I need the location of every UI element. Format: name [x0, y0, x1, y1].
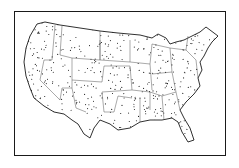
state-border [150, 64, 152, 90]
state-border [176, 92, 180, 110]
state-border [102, 66, 132, 92]
state-border [102, 92, 114, 112]
state-borders [40, 25, 198, 122]
state-border [60, 26, 72, 80]
state-border [170, 48, 196, 60]
state-border [100, 40, 130, 62]
state-border [114, 96, 132, 112]
state-border [60, 80, 72, 100]
state-border [40, 60, 60, 100]
state-border [150, 72, 176, 96]
state-border [152, 44, 172, 74]
state-border [72, 40, 100, 60]
state-border [162, 96, 164, 120]
state-border [72, 66, 130, 82]
state-border [196, 60, 198, 78]
population-dots [21, 20, 219, 145]
state-border [72, 88, 86, 112]
state-border [130, 44, 152, 64]
us-dot-map [0, 0, 239, 168]
state-border [44, 25, 55, 60]
